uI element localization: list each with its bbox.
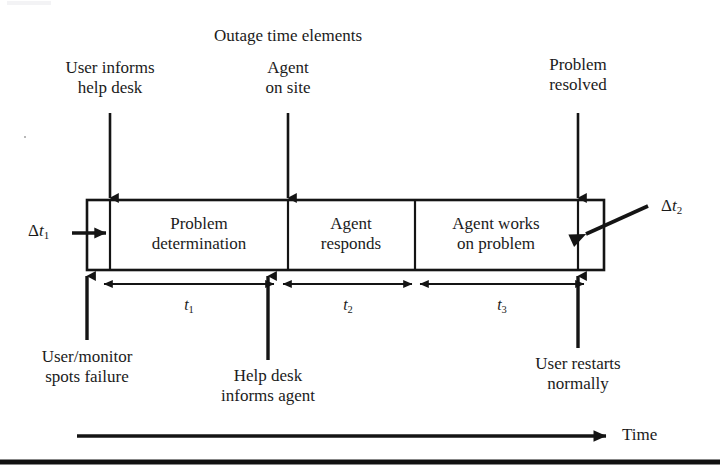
callout-problem-resolved: Problem resolved: [549, 55, 607, 95]
label-t2: t2: [343, 296, 353, 315]
segment-line-2: responds: [289, 234, 413, 254]
delta-symbol: Δ: [661, 196, 672, 215]
segment-line-1: Agent works: [416, 214, 576, 234]
callout-line-2: spots failure: [42, 367, 133, 387]
callout-line-2: help desk: [65, 78, 154, 98]
bottom-event-arrows: [87, 276, 578, 360]
diagram-canvas: Outage time elements User informs help d…: [0, 0, 720, 468]
callout-line-2: normally: [535, 374, 620, 394]
delta-t2-leader: [586, 206, 648, 234]
label-delta-t2: Δt2: [661, 196, 682, 216]
diagram-title: Outage time elements: [214, 26, 362, 46]
callout-user-informs-help-desk: User informs help desk: [65, 58, 154, 98]
callout-agent-on-site: Agent on site: [266, 58, 311, 98]
callout-line-1: Problem: [549, 55, 607, 75]
duration-sub: 3: [502, 304, 507, 315]
label-t3: t3: [497, 296, 507, 315]
callout-user-monitor-spots-failure: User/monitor spots failure: [42, 347, 133, 387]
callout-line-2: informs agent: [221, 386, 315, 406]
label-delta-t1: Δt1: [28, 221, 49, 241]
segment-line-1: Agent: [289, 214, 413, 234]
callout-line-2: resolved: [549, 75, 607, 95]
segment-line-2: on problem: [416, 234, 576, 254]
segment-agent-works-on-problem: Agent works on problem: [416, 214, 576, 255]
callout-line-1: User informs: [65, 58, 154, 78]
duration-sub: 2: [348, 304, 353, 315]
callout-line-1: Help desk: [221, 366, 315, 386]
time-axis-label: Time: [622, 425, 657, 445]
callout-line-1: Agent: [266, 58, 311, 78]
top-event-arrows: [110, 113, 578, 198]
delta-symbol: Δ: [28, 221, 39, 240]
segment-line-2: determination: [114, 234, 284, 254]
callout-help-desk-informs-agent: Help desk informs agent: [221, 366, 315, 406]
label-t1: t1: [184, 296, 194, 315]
callout-line-1: User restarts: [535, 354, 620, 374]
delta-sub: 1: [44, 229, 50, 241]
delta-sub: 2: [677, 204, 683, 216]
callout-line-2: on site: [266, 78, 311, 98]
callout-line-1: User/monitor: [42, 347, 133, 367]
segment-agent-responds: Agent responds: [289, 214, 413, 255]
segment-line-1: Problem: [114, 214, 284, 234]
segment-problem-determination: Problem determination: [114, 214, 284, 255]
callout-user-restarts-normally: User restarts normally: [535, 354, 620, 394]
duration-sub: 1: [189, 304, 194, 315]
